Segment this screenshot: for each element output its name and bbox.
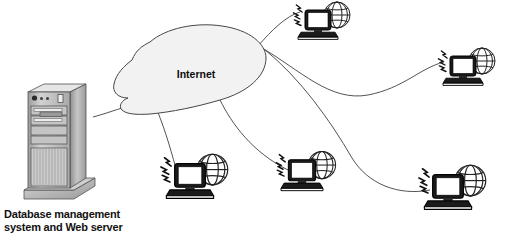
server-caption: Database management system and Web serve… [4,208,154,234]
wireless-client-1 [293,2,350,39]
network-diagram: Internet [0,0,505,248]
wireless-client-5 [419,165,486,209]
wireless-client-4 [276,151,335,190]
server-caption-line-1: Database management [4,208,154,221]
wireless-client-3 [161,154,228,198]
server-caption-line-2: system and Web server [4,221,154,234]
wireless-client-2 [438,48,495,85]
